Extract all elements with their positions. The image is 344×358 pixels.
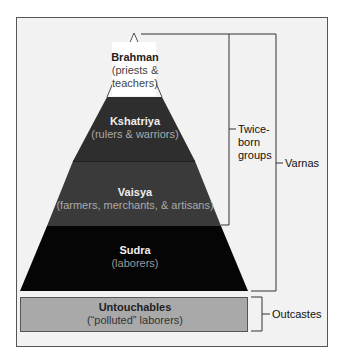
outcastes-bracket	[251, 297, 262, 331]
twice-born-label: Twice- born groups	[238, 123, 272, 162]
twice-born-line-2: born	[238, 136, 272, 149]
vaisya-subtitle: (farmers, merchants, & artisans)	[40, 199, 230, 212]
sudra-label: Sudra (laborers)	[80, 244, 190, 270]
vaisya-label: Vaisya (farmers, merchants, & artisans)	[40, 186, 230, 212]
kshatriya-subtitle: (rulers & warriors)	[60, 128, 210, 141]
untouchables-subtitle: (“polluted” laborers)	[40, 314, 230, 327]
twice-born-line-1: Twice-	[238, 123, 272, 136]
brahman-title: Brahman	[96, 51, 174, 64]
sudra-title: Sudra	[80, 244, 190, 257]
brahman-subtitle-2: teachers)	[96, 77, 174, 90]
brahman-label: Brahman (priests & teachers)	[96, 51, 174, 90]
kshatriya-title: Kshatriya	[60, 115, 210, 128]
untouchables-title: Untouchables	[40, 301, 230, 314]
varnas-label: Varnas	[285, 157, 319, 170]
twice-born-line-3: groups	[238, 149, 272, 162]
outcastes-label: Outcastes	[272, 308, 322, 321]
varnas-bracket	[229, 34, 276, 291]
sudra-subtitle: (laborers)	[80, 257, 190, 270]
brahman-subtitle-1: (priests &	[96, 64, 174, 77]
untouchables-label: Untouchables (“polluted” laborers)	[40, 301, 230, 327]
vaisya-title: Vaisya	[40, 186, 230, 199]
kshatriya-label: Kshatriya (rulers & warriors)	[60, 115, 210, 141]
